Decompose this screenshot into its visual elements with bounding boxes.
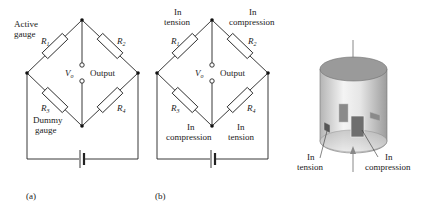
gauge-compression bbox=[351, 116, 364, 137]
r1-state-label-1: In bbox=[174, 7, 182, 17]
r3-label-b: R3 bbox=[170, 103, 180, 114]
r1-state-label-2: tension bbox=[164, 17, 190, 27]
node-bottom-a bbox=[80, 124, 84, 128]
output-label-b: Output bbox=[220, 68, 246, 78]
strain-gauge-diagram: Active gauge R1 R2 R3 R4 Vo Output Dummy… bbox=[0, 0, 428, 207]
r2-state-label-1: In bbox=[249, 7, 257, 17]
output-terminal-top-b bbox=[210, 63, 214, 67]
battery-icon-a bbox=[80, 150, 84, 168]
gauge-back-left bbox=[339, 104, 348, 122]
compression-label-1: In bbox=[385, 152, 393, 162]
r1-label-a: R1 bbox=[40, 36, 50, 47]
node-top-a bbox=[80, 18, 84, 22]
node-bottom-b bbox=[210, 124, 214, 128]
r2-state-label-2: compression bbox=[229, 17, 275, 27]
output-label-a: Output bbox=[90, 68, 116, 78]
dummy-gauge-label-2: gauge bbox=[35, 125, 57, 135]
active-gauge-label-1: Active bbox=[14, 19, 38, 29]
active-gauge-label-2: gauge bbox=[14, 29, 36, 39]
node-left-b bbox=[155, 71, 159, 75]
r4-label-a: R4 bbox=[116, 103, 126, 114]
r1-label-b: R1 bbox=[170, 36, 180, 47]
r3-state-label-1: In bbox=[187, 122, 195, 132]
node-right-a bbox=[136, 71, 140, 75]
output-terminal-bottom-a bbox=[80, 79, 84, 83]
r3-label-a: R3 bbox=[40, 103, 50, 114]
output-terminal-bottom-b bbox=[210, 79, 214, 83]
cylinder-top bbox=[320, 57, 387, 81]
compression-label-2: compression bbox=[365, 162, 411, 172]
r2-label-b: R2 bbox=[247, 36, 257, 47]
node-right-b bbox=[266, 71, 270, 75]
vo-label-b: Vo bbox=[195, 68, 204, 79]
load-cell-cylinder: In tension In compression bbox=[297, 40, 411, 172]
r4-state-label-2: tension bbox=[228, 132, 254, 142]
tension-label-1: In bbox=[307, 152, 315, 162]
caption-b: (b) bbox=[155, 191, 166, 201]
r4-label-b: R4 bbox=[246, 103, 256, 114]
node-top-b bbox=[210, 18, 214, 22]
bridge-circuit-b: In tension In compression R1 R2 R3 R4 Vo… bbox=[155, 7, 275, 201]
dummy-gauge-label-1: Dummy bbox=[33, 115, 63, 125]
vo-label-a: Vo bbox=[65, 68, 74, 79]
r3-state-label-2: compression bbox=[166, 132, 212, 142]
node-left-a bbox=[25, 71, 29, 75]
tension-label-2: tension bbox=[297, 162, 323, 172]
battery-icon-b bbox=[211, 150, 215, 168]
r2-label-a: R2 bbox=[116, 36, 126, 47]
output-terminal-top-a bbox=[80, 63, 84, 67]
bridge-circuit-a: Active gauge R1 R2 R3 R4 Vo Output Dummy… bbox=[14, 18, 140, 201]
r4-state-label-1: In bbox=[237, 122, 245, 132]
caption-a: (a) bbox=[26, 191, 36, 201]
